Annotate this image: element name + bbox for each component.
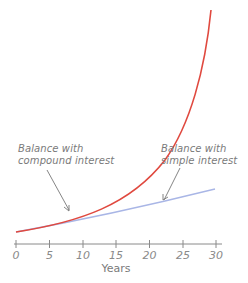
compound-annotation-arrow — [47, 170, 69, 210]
x-tick-label: 30 — [209, 249, 223, 262]
compound-interest-annotation: Balance with compound interest — [18, 143, 114, 167]
compound-label-line2: compound interest — [18, 155, 114, 167]
x-tick-label: 25 — [176, 249, 190, 262]
x-tick-label: 10 — [76, 249, 90, 262]
simple-label-line2: simple interest — [161, 155, 237, 167]
simple-label-line1: Balance with — [161, 143, 237, 155]
chart-canvas — [0, 0, 248, 283]
simple-interest-line — [16, 189, 215, 232]
x-tick-label: 5 — [46, 249, 53, 262]
simple-annotation-arrow — [164, 168, 180, 200]
simple-interest-annotation: Balance with simple interest — [161, 143, 237, 167]
x-tick-label: 15 — [109, 249, 123, 262]
x-tick-label: 0 — [13, 249, 20, 262]
x-tick-label: 20 — [143, 249, 157, 262]
compound-interest-curve — [16, 10, 211, 232]
x-axis-label: Years — [101, 262, 130, 275]
compound-label-line1: Balance with — [18, 143, 114, 155]
